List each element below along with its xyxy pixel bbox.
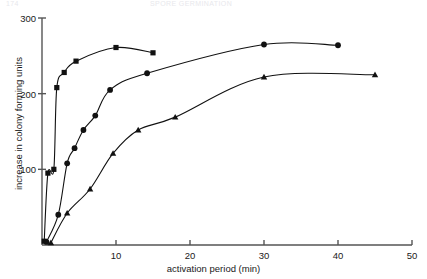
data-point-circle xyxy=(92,113,98,119)
data-point-square xyxy=(62,70,67,75)
series-curve-circles xyxy=(46,43,338,242)
data-point-square xyxy=(73,59,78,64)
data-point-circle xyxy=(81,127,87,133)
x-axis-tick-marks xyxy=(116,240,412,245)
x-tick-label: 10 xyxy=(111,250,122,261)
scatter-line-plot xyxy=(0,0,427,279)
data-point-circle xyxy=(64,160,70,166)
data-point-circle xyxy=(144,70,150,76)
x-tick-label: 30 xyxy=(259,250,270,261)
data-point-square xyxy=(150,50,155,55)
chart-page: 174 SPORE GERMINATION activation period … xyxy=(0,0,427,279)
y-tick-label: 300 xyxy=(6,13,36,24)
y-tick-label: 100 xyxy=(6,164,36,175)
data-point-square xyxy=(45,171,50,176)
data-point-circle xyxy=(72,145,78,151)
data-point-triangle xyxy=(135,127,141,133)
x-axis-label: activation period (min) xyxy=(0,263,427,274)
y-tick-label: 200 xyxy=(6,88,36,99)
series-curves xyxy=(44,43,375,243)
x-tick-label: 20 xyxy=(185,250,196,261)
data-point-circle xyxy=(261,42,267,48)
data-point-square xyxy=(113,45,118,50)
x-tick-label: 50 xyxy=(407,250,418,261)
data-point-circle xyxy=(107,87,113,93)
series-curve-triangles xyxy=(51,73,375,242)
data-point-circle xyxy=(55,212,61,218)
data-point-square xyxy=(51,167,56,172)
data-point-circle xyxy=(335,42,341,48)
data-point-square xyxy=(54,85,59,90)
x-tick-label: 40 xyxy=(333,250,344,261)
y-axis-label: increase in colony forming units xyxy=(13,49,24,199)
series-markers xyxy=(42,42,379,246)
